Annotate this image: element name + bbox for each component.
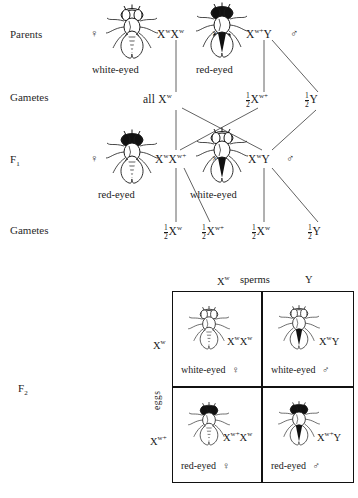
punnett-cell-genotype: XwXw [227,334,252,347]
f1-female-sex-symbol: ♀ [90,152,98,164]
row-label-f1: F1 [10,153,20,168]
gamete-parent-female: all Xw [143,92,172,105]
fraction-half: 12 [305,92,309,108]
gamete-f1-male-y: 12Y [308,224,321,240]
row-label-gametes-parents: Gametes [10,91,48,103]
parent-female-genotype: XwXw [157,27,184,40]
punnett-row-header-xw: Xw [153,338,166,351]
punnett-cell-phenotype: white-eyed ♀ [181,364,239,375]
f2-subscript: 2 [24,389,28,397]
fly-parent-male-red-eyed [192,2,252,60]
connector-lines [0,0,358,300]
sex-symbol: ♂ [322,364,330,375]
gamete-f1-male-xw: 12Xw [252,224,270,240]
punnett-row-header-xwplus: Xw+ [150,434,167,447]
punnett-cell-genotype: Xw+Y [317,430,341,443]
phenotype-text: white-eyed [271,364,315,375]
fly-f2-red-eyed-female [185,394,233,454]
fraction-half: 12 [164,224,168,240]
punnett-cell-genotype: Xw+Xw [223,430,252,443]
f1-male-genotype: XwY [248,152,270,165]
punnett-cell-red-male: Xw+Y red-eyed ♂ [262,387,354,483]
punnett-col-header-xw: Xw [217,274,230,287]
punnett-cell-phenotype: red-eyed ♀ [181,460,230,471]
phenotype-text: red-eyed [271,460,306,471]
punnett-cell-white-male: XwY white-eyed ♂ [262,291,354,387]
row-label-f2: F2 [18,382,28,397]
fly-parent-female-white-eyed [102,4,162,60]
fly-f1-male-white-eyed [192,127,252,185]
parent-female-phenotype: white-eyed [92,64,139,75]
gamete-parent-male-x: 12Xw+ [246,92,268,108]
fly-f2-red-eyed-male [275,394,323,454]
sex-symbol: ♀ [232,364,240,375]
phenotype-text: red-eyed [181,460,216,471]
phenotype-text: white-eyed [181,364,225,375]
parent-male-sex-symbol: ♂ [290,27,298,39]
punnett-cell-red-female: Xw+Xw red-eyed ♀ [172,387,262,483]
parent-female-sex-symbol: ♀ [90,27,98,39]
gamete-parent-male-y: 12Y [305,92,318,108]
f1-subscript: 1 [16,160,20,168]
genetics-diagram: Parents Gametes F1 Gametes F2 ♀ [0,0,358,498]
fraction-half: 12 [202,224,206,240]
row-label-parents: Parents [10,28,42,40]
punnett-cell-white-female: XwXw white-eyed ♀ [172,291,262,387]
f1-female-genotype: XwXw+ [155,152,186,165]
punnett-col-header-y: Y [305,274,313,285]
fly-f2-white-eyed-male [275,298,323,358]
fraction-half: 12 [308,224,312,240]
parent-male-genotype: Xw+Y [246,27,272,40]
punnett-cell-phenotype: white-eyed ♂ [271,364,329,375]
parent-male-phenotype: red-eyed [196,64,233,75]
row-label-gametes-f1: Gametes [10,224,48,236]
f1-male-phenotype: white-eyed [190,189,237,200]
punnett-eggs-label: eggs [152,391,162,410]
punnett-cell-phenotype: red-eyed ♂ [271,460,320,471]
fly-f2-white-eyed-female [185,298,233,358]
gamete-f1-female-xw: 12Xw [164,224,182,240]
f1-female-phenotype: red-eyed [98,189,135,200]
f1-male-sex-symbol: ♂ [286,152,294,164]
fraction-half: 12 [252,224,256,240]
gamete-f1-female-xwplus: 12Xw+ [202,224,224,240]
punnett-sperms-label: sperms [240,274,270,285]
sex-symbol: ♀ [222,460,230,471]
punnett-cell-genotype: XwY [319,334,339,347]
fly-f1-female-red-eyed [102,129,162,185]
sex-symbol: ♂ [312,460,320,471]
fraction-half: 12 [246,92,250,108]
